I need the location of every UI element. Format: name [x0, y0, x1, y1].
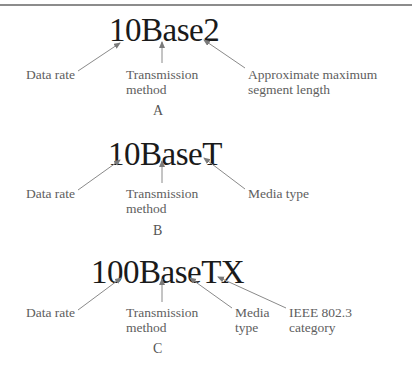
arrow-segment-a	[204, 40, 245, 68]
arrow-data-rate-c	[78, 278, 121, 310]
arrow-data-rate-b	[78, 160, 120, 190]
arrow-data-rate-a	[78, 43, 120, 71]
arrow-ieee-c	[218, 277, 286, 308]
arrow-media-b	[204, 158, 245, 189]
annotation-arrows	[0, 0, 412, 382]
arrow-media-c	[190, 278, 232, 308]
